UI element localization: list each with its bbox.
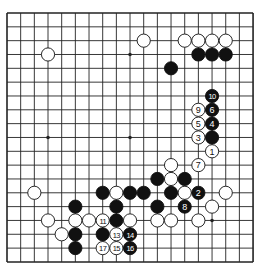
move-number-label: 14 — [126, 231, 134, 240]
white-stone — [192, 34, 205, 47]
move-number-label: 4 — [210, 119, 215, 129]
move-number-label: 3 — [196, 133, 201, 143]
move-number-label: 17 — [99, 244, 107, 253]
black-stone — [205, 48, 218, 61]
numbered-white-stone: 13 — [110, 228, 123, 241]
black-stone — [123, 186, 136, 199]
move-number-label: 8 — [182, 202, 187, 212]
numbered-white-stone: 1 — [205, 145, 218, 158]
black-stone — [219, 48, 232, 61]
black-stone — [110, 200, 123, 213]
black-stone — [69, 228, 82, 241]
move-number-label: 13 — [113, 231, 121, 240]
black-stone — [151, 172, 164, 185]
numbered-black-stone: 14 — [123, 228, 136, 241]
move-number-label: 9 — [196, 105, 201, 115]
move-number-label: 15 — [113, 244, 121, 253]
black-stone — [178, 172, 191, 185]
black-stone — [164, 186, 177, 199]
white-stone — [151, 214, 164, 227]
black-stone — [164, 62, 177, 75]
black-stone — [110, 214, 123, 227]
white-stone — [123, 214, 136, 227]
white-stone — [192, 214, 205, 227]
move-number-label: 10 — [208, 92, 216, 101]
numbered-black-stone: 6 — [205, 103, 218, 116]
move-number-label: 2 — [196, 188, 201, 198]
white-stone — [178, 34, 191, 47]
white-stone — [205, 34, 218, 47]
move-number-label: 6 — [210, 105, 215, 115]
move-number-label: 11 — [99, 217, 106, 226]
white-stone — [164, 214, 177, 227]
numbered-white-stone: 15 — [110, 242, 123, 255]
white-stone — [205, 200, 218, 213]
white-stone — [69, 214, 82, 227]
black-stone — [96, 228, 109, 241]
numbered-black-stone: 10 — [205, 89, 218, 102]
white-stone — [82, 214, 95, 227]
white-stone — [55, 228, 68, 241]
black-stone — [192, 48, 205, 61]
numbered-white-stone: 7 — [192, 159, 205, 172]
numbered-black-stone: 8 — [178, 200, 191, 213]
numbered-white-stone: 5 — [192, 117, 205, 130]
numbered-black-stone: 2 — [192, 186, 205, 199]
black-stone — [69, 242, 82, 255]
star-point — [128, 53, 132, 57]
white-stone — [41, 48, 54, 61]
numbered-black-stone: 16 — [123, 242, 136, 255]
star-point — [210, 219, 214, 223]
white-stone — [41, 214, 54, 227]
black-stone — [69, 200, 82, 213]
star-point — [128, 136, 132, 140]
move-number-label: 7 — [196, 160, 201, 170]
numbered-white-stone: 17 — [96, 242, 109, 255]
black-stone — [137, 186, 150, 199]
numbered-black-stone: 4 — [205, 117, 218, 130]
star-point — [46, 136, 50, 140]
black-stone — [151, 200, 164, 213]
white-stone — [28, 186, 41, 199]
white-stone — [219, 34, 232, 47]
white-stone — [164, 172, 177, 185]
white-stone — [178, 186, 191, 199]
move-number-label: 5 — [196, 119, 201, 129]
numbered-white-stone: 11 — [96, 214, 109, 227]
move-number-label: 16 — [126, 244, 134, 253]
numbered-white-stone: 3 — [192, 131, 205, 144]
black-stone — [96, 186, 109, 199]
white-stone — [110, 186, 123, 199]
black-stone — [205, 131, 218, 144]
white-stone — [137, 34, 150, 47]
numbered-white-stone: 9 — [192, 103, 205, 116]
white-stone — [219, 186, 232, 199]
move-number-label: 1 — [210, 147, 215, 157]
go-board: 12345678910111314151617 — [0, 0, 259, 273]
white-stone — [164, 159, 177, 172]
